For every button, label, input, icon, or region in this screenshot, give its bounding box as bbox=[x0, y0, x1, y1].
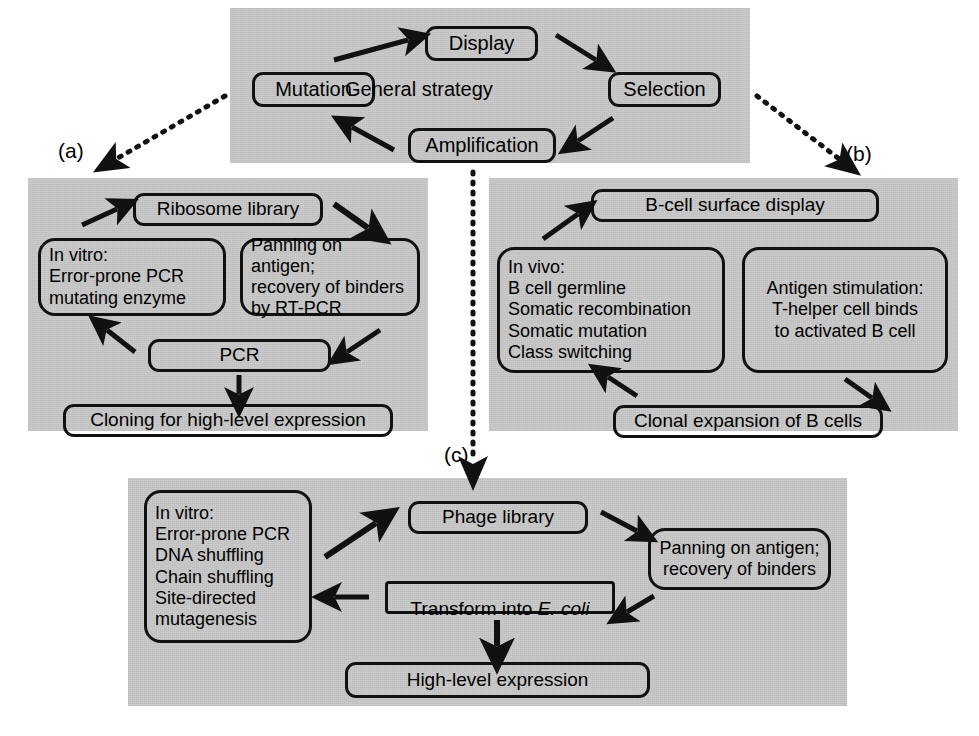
node-b-selection-box[interactable]: Antigen stimulation: T-helper cell binds… bbox=[742, 247, 948, 373]
node-a-cloning[interactable]: Cloning for high-level expression bbox=[63, 404, 393, 437]
dotted-connector-b bbox=[757, 96, 838, 158]
node-a-selection-box[interactable]: Panning on antigen; recovery of binders … bbox=[240, 238, 420, 316]
node-c-mutation-label: In vitro: Error-prone PCR DNA shuffling … bbox=[147, 503, 298, 629]
node-phage-library[interactable]: Phage library bbox=[408, 501, 588, 534]
node-bcell-surface-display[interactable]: B-cell surface display bbox=[591, 189, 879, 222]
node-a-pcr-label: PCR bbox=[212, 344, 266, 366]
node-a-cloning-label: Cloning for high-level expression bbox=[83, 409, 373, 431]
node-a-pcr[interactable]: PCR bbox=[148, 339, 331, 372]
panel-label-b: (b) bbox=[846, 142, 872, 166]
node-a-mutation-box[interactable]: In vitro: Error-prone PCR mutating enzym… bbox=[38, 238, 226, 316]
panel-label-a: (a) bbox=[58, 139, 84, 163]
node-phage-library-label: Phage library bbox=[435, 506, 561, 528]
node-display-label: Display bbox=[442, 32, 522, 55]
node-b-clonal-expansion[interactable]: Clonal expansion of B cells bbox=[613, 405, 883, 438]
node-a-mutation-label: In vitro: Error-prone PCR mutating enzym… bbox=[41, 245, 194, 308]
figure-canvas: General strategy Mutation Display Select… bbox=[0, 0, 979, 736]
node-c-selection-label: Panning on antigen; recovery of binders bbox=[651, 538, 827, 580]
node-transform-ecoli[interactable]: Transform into E. coli bbox=[385, 581, 615, 614]
node-c-mutation-box[interactable]: In vitro: Error-prone PCR DNA shuffling … bbox=[144, 490, 312, 643]
node-selection[interactable]: Selection bbox=[608, 72, 721, 107]
node-transform-ecoli-label: Transform into E. coli bbox=[404, 575, 597, 619]
node-bcell-surface-display-label: B-cell surface display bbox=[638, 194, 832, 216]
node-b-mutation-box[interactable]: In vivo: B cell germline Somatic recombi… bbox=[497, 247, 725, 373]
node-a-selection-label: Panning on antigen; recovery of binders … bbox=[243, 235, 417, 319]
node-ribosome-library-label: Ribosome library bbox=[150, 198, 307, 220]
node-c-high-level-expression-label: High-level expression bbox=[400, 669, 596, 691]
node-selection-label: Selection bbox=[616, 78, 712, 101]
dotted-connector-a bbox=[118, 96, 225, 158]
node-c-selection-box[interactable]: Panning on antigen; recovery of binders bbox=[648, 528, 831, 590]
node-b-selection-label: Antigen stimulation: T-helper cell binds… bbox=[758, 278, 931, 341]
transform-organism-name: E. coli bbox=[538, 598, 590, 619]
transform-prefix-text: Transform into bbox=[411, 598, 538, 619]
node-ribosome-library[interactable]: Ribosome library bbox=[133, 193, 323, 226]
node-display[interactable]: Display bbox=[425, 26, 538, 61]
node-amplification-label: Amplification bbox=[418, 134, 545, 157]
node-c-high-level-expression[interactable]: High-level expression bbox=[345, 662, 650, 698]
general-strategy-label: General strategy bbox=[345, 78, 493, 101]
node-b-mutation-label: In vivo: B cell germline Somatic recombi… bbox=[500, 257, 699, 362]
node-b-clonal-expansion-label: Clonal expansion of B cells bbox=[627, 410, 869, 432]
node-amplification[interactable]: Amplification bbox=[408, 128, 556, 163]
panel-label-c: (c) bbox=[444, 443, 469, 467]
